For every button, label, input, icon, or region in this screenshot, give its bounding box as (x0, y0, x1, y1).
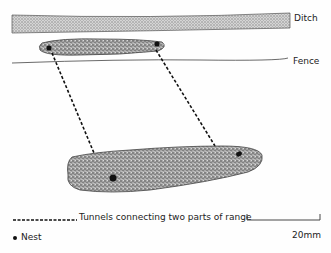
scale-bar (247, 214, 320, 220)
nest-marker (154, 41, 159, 46)
fence-label: Fence (293, 56, 319, 66)
nest-marker (46, 45, 51, 50)
upper-range (39, 39, 164, 55)
nest-marker (110, 175, 117, 182)
tunnel-right (156, 50, 215, 146)
scale-label: 20mm (292, 230, 321, 240)
ditch-band (12, 13, 290, 33)
legend-nest-swatch (13, 236, 17, 240)
legend-nest-label: Nest (21, 232, 42, 242)
fence-line (12, 58, 288, 63)
ditch-label: Ditch (294, 13, 318, 23)
lower-range (68, 146, 263, 192)
tunnel-left (52, 53, 94, 153)
diagram-canvas: Ditch Fence Tunnels connecting two parts… (0, 0, 331, 253)
legend-tunnels-label: Tunnels connecting two parts of range (79, 212, 251, 222)
